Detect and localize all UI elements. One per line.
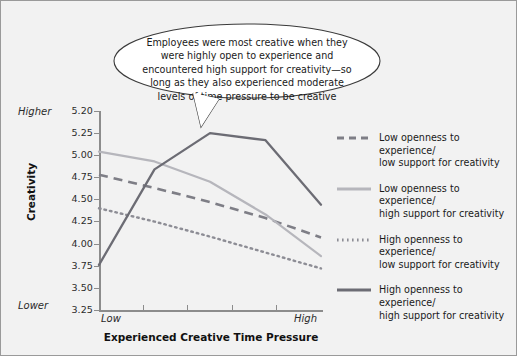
x-tick-label-high: High: [294, 313, 317, 324]
x-axis-line: [99, 310, 323, 312]
legend-item-3: High openness to experience/ high suppor…: [337, 284, 513, 322]
legend-swatch-solid-dark-icon: [337, 287, 371, 300]
legend-swatch-dashed-icon: [337, 135, 371, 148]
legend-swatch-dotted-icon: [337, 237, 371, 250]
legend-item-1: Low openness to experience/ high support…: [337, 183, 513, 221]
y-tick-label: 4.75: [59, 171, 93, 182]
legend-label: Low openness to experience/ high support…: [379, 183, 513, 221]
y-axis-lower-note: Lower: [18, 300, 66, 311]
x-tick-label-low: Low: [101, 313, 121, 324]
plot-area: [99, 111, 321, 310]
chart-figure: Employees were most creative when they w…: [0, 0, 517, 356]
y-tick-label-wrap: 4.00: [53, 238, 93, 250]
series-line-3: [99, 133, 321, 265]
series-line-2: [99, 208, 321, 268]
y-tick-label: 4.50: [59, 193, 93, 204]
y-tick-label-wrap: 5.25: [53, 127, 93, 139]
y-tick-label-wrap: 3.75: [53, 260, 93, 272]
x-axis-title: Experienced Creative Time Pressure: [99, 331, 323, 343]
y-tick-label: 5.25: [59, 127, 93, 138]
y-tick-label-wrap: 4.50: [53, 193, 93, 205]
y-axis-title: Creativity: [25, 142, 37, 242]
legend: Low openness to experience/ low support …: [337, 132, 513, 335]
y-tick-label: 3.75: [59, 260, 93, 271]
callout-bubble: Employees were most creative when they w…: [113, 23, 381, 99]
legend-label: High openness to experience/ low support…: [379, 234, 513, 272]
series-canvas: [99, 111, 321, 310]
y-tick-label-wrap: 4.25: [53, 215, 93, 227]
y-tick-label: 4.25: [59, 215, 93, 226]
legend-label: High openness to experience/ high suppor…: [379, 284, 513, 322]
y-tick: [94, 310, 99, 311]
legend-item-2: High openness to experience/ low support…: [337, 234, 513, 272]
y-tick-label: 5.00: [59, 149, 93, 160]
legend-label: Low openness to experience/ low support …: [379, 132, 513, 170]
legend-swatch-solid-light-icon: [337, 186, 371, 199]
y-tick-label-wrap: 5.00: [53, 149, 93, 161]
y-tick-label: 4.00: [59, 238, 93, 249]
y-axis-higher-note: Higher: [18, 106, 66, 117]
y-tick-label: 3.50: [59, 282, 93, 293]
legend-item-0: Low openness to experience/ low support …: [337, 132, 513, 170]
y-tick-label-wrap: 3.50: [53, 282, 93, 294]
y-tick-label-wrap: 4.75: [53, 171, 93, 183]
